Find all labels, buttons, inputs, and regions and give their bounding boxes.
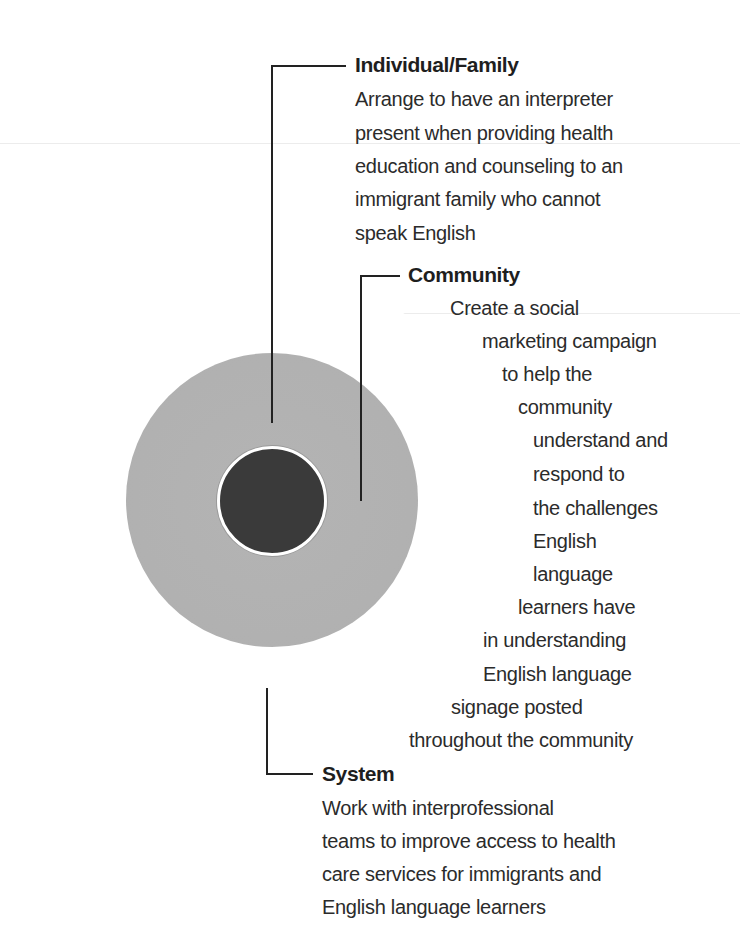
individual-text-line: Arrange to have an interpreter xyxy=(355,87,613,111)
individual-text-line: present when providing health xyxy=(355,121,613,145)
community-text-line: language xyxy=(533,562,613,586)
individual-text-line: speak English xyxy=(355,221,476,245)
system-text-line: teams to improve access to health xyxy=(322,829,616,853)
community-title: Community xyxy=(408,263,520,287)
community-text-line: understand and xyxy=(533,428,668,452)
system-text-line: English language learners xyxy=(322,895,546,919)
community-text-line: respond to xyxy=(533,462,625,486)
community-text-line: marketing campaign xyxy=(482,329,657,353)
individual-core xyxy=(217,446,327,556)
community-text-line: signage posted xyxy=(451,695,582,719)
system-text-line: care services for immigrants and xyxy=(322,862,601,886)
community-text-line: throughout the community xyxy=(409,728,633,752)
community-text-line: English language xyxy=(483,662,632,686)
system-title: System xyxy=(322,762,394,786)
community-text-line: in understanding xyxy=(483,628,626,652)
individual-text-line: education and counseling to an xyxy=(355,154,623,178)
community-text-line: Create a social xyxy=(450,296,579,320)
community-text-line: to help the xyxy=(502,362,592,386)
community-text-line: the challenges xyxy=(533,496,658,520)
system-text-line: Work with interprofessional xyxy=(322,796,554,820)
community-text-line: community xyxy=(518,395,612,419)
community-text-line: English xyxy=(533,529,597,553)
individual-title: Individual/Family xyxy=(355,53,519,77)
community-text-line: learners have xyxy=(518,595,635,619)
individual-text-line: immigrant family who cannot xyxy=(355,187,600,211)
